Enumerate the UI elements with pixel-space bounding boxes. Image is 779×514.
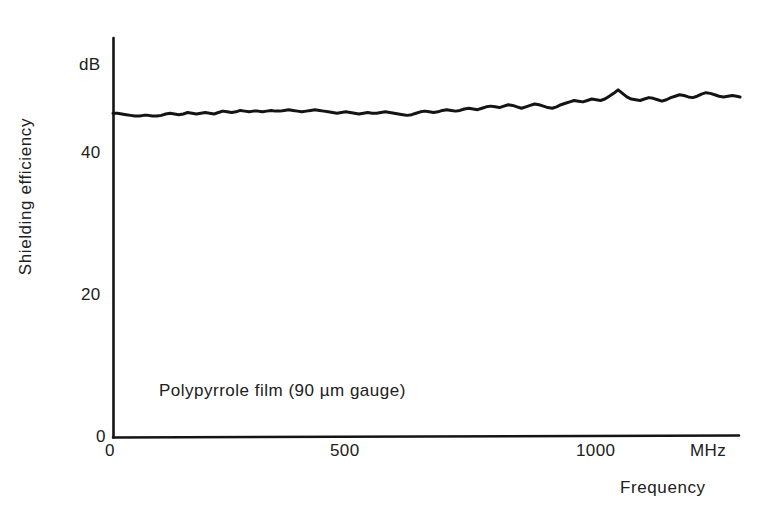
shielding-efficiency-chart (0, 0, 779, 514)
x-axis-unit-label: MHz (690, 441, 726, 461)
data-series-layer (113, 90, 740, 116)
plot-annotation-sample-label: Polypyrrole film (90 µm gauge) (159, 381, 406, 401)
y-axis-title: Shielding efficiency (16, 118, 36, 275)
y-tick-label-40: 40 (81, 143, 101, 163)
x-axis-title: Frequency (620, 478, 706, 498)
x-axis-line (113, 436, 739, 438)
data-line-polypyrrole (113, 90, 740, 116)
figure-container: 40 20 0 dB 0 500 1000 MHz Shielding effi… (0, 0, 779, 514)
y-axis-unit-label: dB (79, 55, 101, 75)
x-tick-label-500: 500 (330, 441, 360, 461)
x-tick-label-1000: 1000 (576, 441, 615, 461)
x-tick-label-0: 0 (105, 441, 115, 461)
y-tick-label-20: 20 (81, 285, 101, 305)
